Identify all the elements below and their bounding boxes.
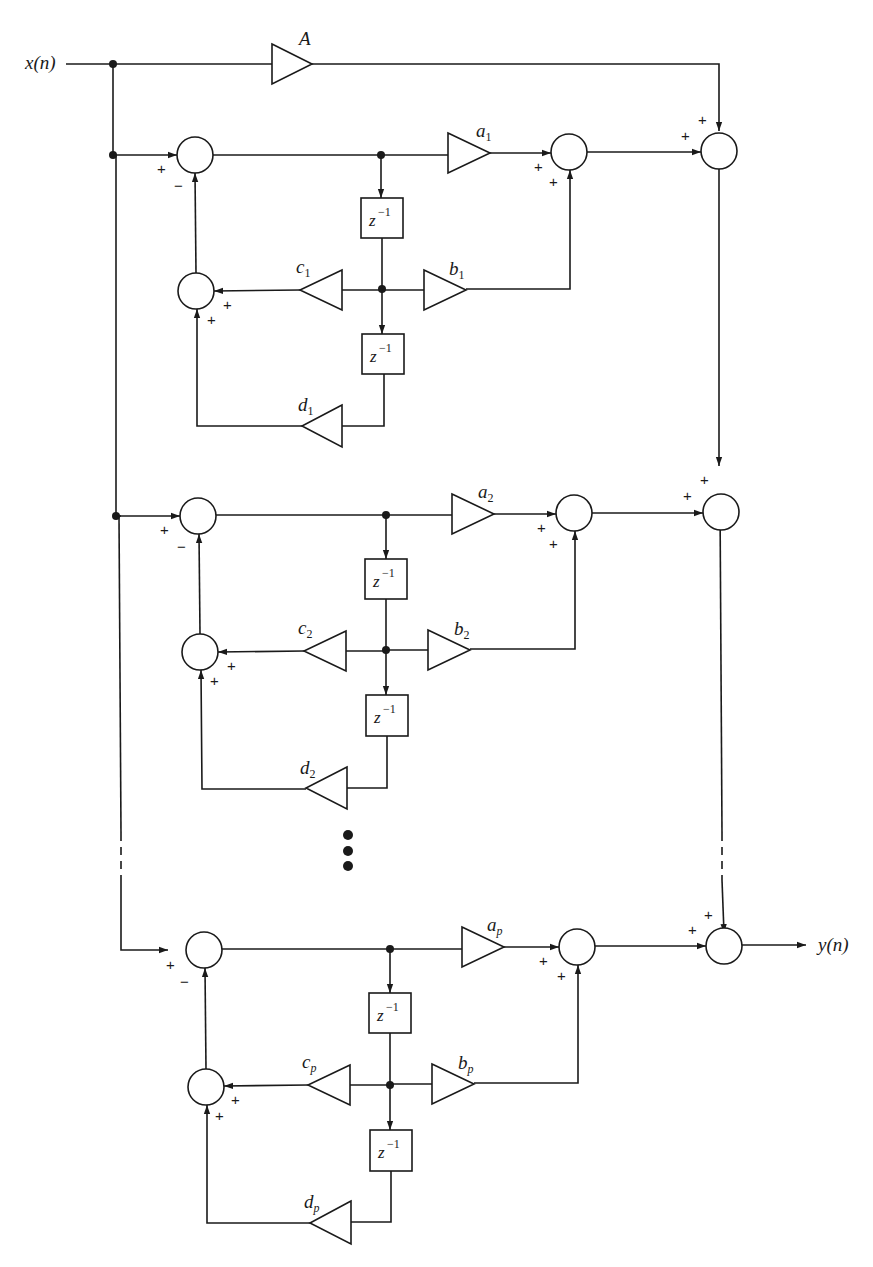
svg-text:+: + <box>207 311 216 328</box>
svg-text:ap: ap <box>487 914 503 938</box>
svg-text:−1: −1 <box>379 341 392 355</box>
section-1: + − a1 + + + + z −1 c1 + + b1 z −1 <box>109 111 737 447</box>
ellipsis-dots <box>343 830 353 871</box>
svg-text:−1: −1 <box>378 205 391 219</box>
svg-text:cp: cp <box>302 1051 316 1075</box>
svg-text:+: + <box>539 952 548 969</box>
svg-text:+: + <box>160 521 169 538</box>
summer-1c <box>178 273 214 309</box>
svg-text:dp: dp <box>304 1191 320 1215</box>
svg-text:+: + <box>549 535 558 552</box>
svg-text:+: + <box>210 672 219 689</box>
svg-text:bp: bp <box>458 1052 474 1076</box>
output-bus-line <box>720 502 722 833</box>
svg-text:z: z <box>369 347 377 366</box>
svg-text:+: + <box>227 657 236 674</box>
svg-text:+: + <box>157 160 166 177</box>
svg-text:+: + <box>704 906 713 923</box>
summer-pc <box>188 1069 224 1105</box>
svg-text:d1: d1 <box>298 394 314 418</box>
section-2: + − a2 + + + + z −1 c2 + + b2 z −1 <box>112 471 739 809</box>
svg-text:+: + <box>688 921 697 938</box>
svg-text:+: + <box>534 158 543 175</box>
gain-A-amplifier-icon <box>272 44 312 84</box>
svg-text:c1: c1 <box>296 256 310 280</box>
output-bus-line <box>722 880 724 933</box>
summer-pa <box>186 932 222 968</box>
svg-text:+: + <box>700 471 709 488</box>
svg-text:z: z <box>377 1143 385 1162</box>
direct-path-line <box>312 64 719 131</box>
output-label: y(n) <box>816 934 849 956</box>
svg-text:z: z <box>373 708 381 727</box>
summer-2c <box>182 634 218 670</box>
svg-text:+: + <box>166 956 175 973</box>
input-label: x(n) <box>24 52 56 74</box>
svg-text:+: + <box>223 296 232 313</box>
svg-text:−1: −1 <box>383 702 396 716</box>
svg-text:z: z <box>376 1006 384 1025</box>
svg-text:a2: a2 <box>478 481 494 505</box>
svg-text:+: + <box>683 487 692 504</box>
gain-A-label: A <box>297 28 311 49</box>
output-summer-p <box>706 928 742 964</box>
parallel-biquad-diagram: x(n) A + − a1 + + + + z −1 <box>0 0 873 1267</box>
output-summer-1 <box>701 133 737 169</box>
svg-text:+: + <box>215 1107 224 1124</box>
svg-text:+: + <box>681 127 690 144</box>
svg-text:c2: c2 <box>298 617 312 641</box>
section-p: + − ap + + + + y(n) z −1 cp + + bp <box>166 906 849 1244</box>
svg-text:−: − <box>177 538 186 555</box>
bus-line <box>119 516 121 833</box>
svg-text:−1: −1 <box>387 1137 400 1151</box>
summer-2b <box>556 495 592 531</box>
svg-text:−: − <box>174 177 183 194</box>
summer-pb <box>559 929 595 965</box>
svg-text:z: z <box>368 211 376 230</box>
svg-text:+: + <box>231 1091 240 1108</box>
svg-text:+: + <box>557 967 566 984</box>
output-summer-2 <box>703 494 739 530</box>
svg-text:+: + <box>537 519 546 536</box>
summer-1b <box>551 134 587 170</box>
svg-text:+: + <box>698 111 707 128</box>
svg-text:a1: a1 <box>476 120 492 144</box>
bus-line <box>121 880 168 950</box>
svg-text:−1: −1 <box>386 1000 399 1014</box>
svg-text:+: + <box>549 173 558 190</box>
summer-2a <box>180 498 216 534</box>
svg-text:d2: d2 <box>300 757 316 781</box>
svg-text:−: − <box>180 973 189 990</box>
svg-text:−1: −1 <box>382 566 395 580</box>
svg-text:b2: b2 <box>454 618 470 642</box>
svg-text:z: z <box>372 572 380 591</box>
summer-1a <box>177 137 213 173</box>
svg-text:b1: b1 <box>449 258 465 282</box>
